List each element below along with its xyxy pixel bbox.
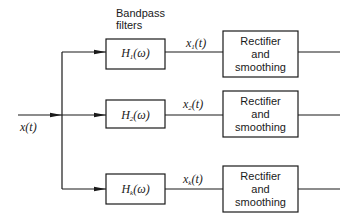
bandpass-filters-label: Bandpass filters	[116, 7, 165, 31]
rectifier-1-line1: Rectifier	[240, 35, 281, 47]
rectifier-2-line2: and	[251, 108, 269, 120]
rectifier-1-line3: smoothing	[235, 61, 286, 73]
signal-label-k: xk(t)	[182, 172, 203, 187]
input-signal: x(t)	[18, 115, 62, 134]
input-label: x(t)	[19, 120, 37, 134]
filter-label-1: H1(ω)	[120, 46, 150, 61]
branch-2: H2(ω) x2(t) Rectifier and smoothing	[62, 91, 340, 137]
rectifier-2-line1: Rectifier	[240, 95, 281, 107]
rectifier-k-line1: Rectifier	[240, 170, 281, 182]
signal-label-2: x2(t)	[182, 97, 203, 112]
filter-label-2: H2(ω)	[120, 108, 150, 123]
rectifier-1-line2: and	[251, 48, 269, 60]
rectifier-k-line2: and	[251, 183, 269, 195]
header-line-1: Bandpass	[116, 7, 165, 19]
branch-k: Hk(ω) xk(t) Rectifier and smoothing	[62, 166, 340, 212]
branch-1: H1(ω) x1(t) Rectifier and smoothing	[62, 31, 340, 77]
signal-label-1: x1(t)	[185, 36, 206, 51]
filter-label-k: Hk(ω)	[120, 182, 149, 197]
header-line-2: filters	[116, 19, 143, 31]
rectifier-k-line3: smoothing	[235, 196, 286, 208]
filter-bank-diagram: Bandpass filters x(t) H1(ω) x1(t) Rectif…	[0, 0, 356, 224]
rectifier-2-line3: smoothing	[235, 121, 286, 133]
